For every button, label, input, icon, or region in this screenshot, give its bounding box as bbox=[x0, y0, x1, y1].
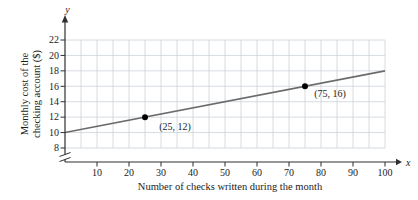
x-tick-label: 90 bbox=[348, 167, 358, 178]
line-chart: 102030405060708090100222018161412108 (25… bbox=[0, 0, 418, 200]
x-tick-label: 20 bbox=[124, 167, 134, 178]
data-point bbox=[302, 83, 308, 89]
x-tick-label: 70 bbox=[284, 167, 294, 178]
y-axis-arrow bbox=[62, 15, 68, 23]
x-tick-label: 60 bbox=[252, 167, 262, 178]
x-axis-title: Number of checks written during the mont… bbox=[138, 181, 323, 192]
x-tick-label: 100 bbox=[378, 167, 393, 178]
y-tick-label: 8 bbox=[54, 142, 59, 153]
axis-ticks bbox=[61, 40, 386, 167]
y-tick-label: 16 bbox=[49, 81, 59, 92]
chart-figure: 102030405060708090100222018161412108 (25… bbox=[0, 0, 418, 200]
x-tick-label: 10 bbox=[92, 167, 102, 178]
y-tick-label: 14 bbox=[49, 96, 59, 107]
tick-labels: 102030405060708090100222018161412108 bbox=[49, 34, 393, 178]
y-axis-title: Monthly cost of thechecking account ($) bbox=[19, 49, 43, 138]
x-tick-label: 80 bbox=[316, 167, 326, 178]
data-point-label: (25, 12) bbox=[159, 121, 191, 133]
data-points: (25, 12)(75, 16) bbox=[142, 83, 346, 133]
y-tick-label: 12 bbox=[49, 111, 59, 122]
y-tick-label: 18 bbox=[49, 65, 59, 76]
x-axis-arrow bbox=[396, 159, 402, 165]
x-tick-label: 50 bbox=[220, 167, 230, 178]
data-point-label: (75, 16) bbox=[314, 88, 346, 100]
y-axis-letter: y bbox=[64, 4, 70, 15]
x-tick-label: 40 bbox=[188, 167, 198, 178]
y-tick-label: 20 bbox=[49, 50, 59, 61]
data-point bbox=[142, 114, 148, 120]
y-tick-label: 10 bbox=[49, 127, 59, 138]
x-axis-letter: x bbox=[405, 157, 411, 168]
y-tick-label: 22 bbox=[49, 34, 59, 45]
x-tick-label: 30 bbox=[156, 167, 166, 178]
